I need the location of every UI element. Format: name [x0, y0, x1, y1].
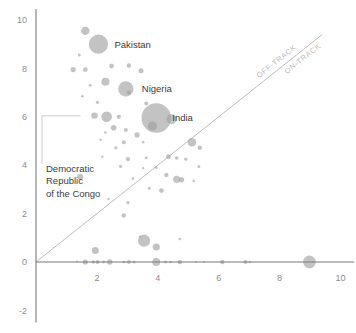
bubble-point	[153, 243, 160, 250]
track-labels-group: OFF-TRACKON-TRACK	[255, 41, 323, 80]
country-annotation-label: India	[172, 112, 193, 123]
bubble-point	[142, 141, 145, 144]
bubble-point	[71, 67, 76, 72]
bubble-point	[81, 27, 89, 35]
bubble-point	[159, 188, 164, 193]
x-axis-tick-label: 8	[277, 273, 282, 283]
bubble-point	[197, 165, 200, 168]
bubble-point	[99, 139, 101, 141]
bubble-point	[101, 112, 112, 123]
bubble-point	[164, 173, 168, 177]
bubble-point	[192, 180, 195, 183]
bubble-point	[101, 156, 103, 158]
bubble-point	[126, 157, 130, 161]
y-axis-tick-label: 2	[22, 209, 27, 219]
bubble-point	[117, 115, 121, 119]
bubble-point	[127, 91, 131, 95]
bubble-point	[124, 128, 128, 132]
bubble-point	[184, 158, 187, 161]
bubble-point	[81, 95, 84, 98]
x-axis-tick-label: 2	[94, 273, 99, 283]
bubble-point	[118, 81, 133, 96]
bubble-point	[96, 101, 99, 104]
bubble-point	[101, 78, 109, 86]
bubble-point	[114, 146, 117, 149]
annotation-leader-line	[42, 116, 81, 164]
bubble-point	[89, 84, 92, 87]
y-axis-tick-label: 8	[22, 64, 27, 74]
bubble-point	[138, 235, 150, 247]
y-axis-tick-label: 10	[17, 15, 27, 25]
country-annotation-label: Nigeria	[142, 83, 173, 94]
bubble-point	[109, 64, 114, 69]
bubble-point	[148, 121, 157, 130]
bubble-point	[178, 238, 181, 241]
bubble-point	[144, 101, 148, 105]
y-axis-tick-label: -2	[19, 306, 27, 316]
x-axis-tick-label: 10	[335, 273, 345, 283]
x-axis-tick-label: 4	[155, 273, 160, 283]
reference-line-group	[36, 35, 322, 262]
bubble-point	[139, 68, 144, 73]
country-annotation-label: Pakistan	[114, 39, 150, 50]
bubble-point	[78, 54, 81, 57]
bubble-point	[122, 213, 126, 217]
scatter-plot-canvas: -20246810246810 PakistanNigeriaIndiaDemo…	[0, 0, 356, 333]
bubble-point	[111, 125, 117, 131]
bubble-point	[148, 187, 151, 190]
bubble-point	[132, 177, 135, 180]
bubble-point	[166, 154, 171, 159]
off-on-track-reference-line	[36, 35, 322, 262]
bubble-point	[122, 140, 126, 144]
bubble-point	[155, 166, 158, 169]
bubble-point	[179, 177, 184, 182]
bubble-point	[198, 146, 202, 150]
bubble-point	[145, 157, 148, 160]
y-axis-tick-label: 6	[22, 112, 27, 122]
bubble-point	[107, 198, 109, 200]
bubble-point	[91, 112, 97, 118]
bubble-point	[83, 67, 88, 72]
bubble-point	[89, 35, 108, 54]
bubble-point	[119, 165, 122, 168]
bubble-chart: -20246810246810 PakistanNigeriaIndiaDemo…	[0, 0, 356, 333]
bubble-point	[175, 156, 179, 160]
bubble-point	[127, 63, 131, 67]
x-axis-tick-label: 6	[216, 273, 221, 283]
bubble-point	[188, 138, 197, 147]
bubble-point	[104, 131, 107, 134]
bubble-point	[142, 167, 144, 169]
bubble-point	[141, 103, 171, 133]
y-axis-tick-label: 4	[22, 160, 27, 170]
bubble-point	[126, 201, 129, 204]
y-axis-tick-label: 0	[22, 257, 27, 267]
country-annotation-label: DemocraticRepublicof the Congo	[46, 163, 100, 199]
bubble-point	[134, 132, 139, 137]
bubble-point	[92, 247, 99, 254]
